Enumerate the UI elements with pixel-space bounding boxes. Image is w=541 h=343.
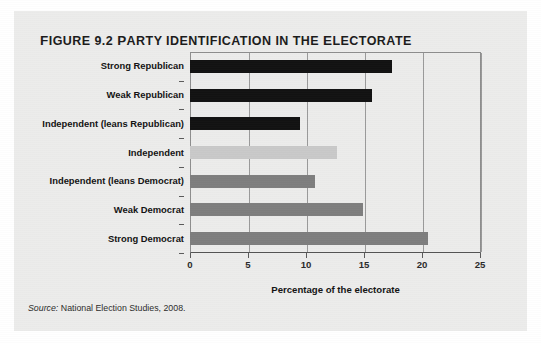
figure-title-initial: P bbox=[117, 33, 126, 48]
category-label: Independent (leans Democrat) bbox=[4, 175, 184, 186]
bar-independent-leans-republican bbox=[190, 117, 300, 130]
category-label: Weak Democrat bbox=[4, 204, 184, 215]
bar-strong-republican bbox=[190, 60, 392, 73]
source-note: Source: National Election Studies, 2008. bbox=[28, 303, 185, 313]
x-axis-tick-label: 10 bbox=[301, 259, 312, 270]
y-axis-tick bbox=[179, 253, 184, 254]
x-axis-tick-label: 5 bbox=[245, 259, 250, 270]
source-text: National Election Studies, 2008. bbox=[58, 303, 185, 313]
bar-strong-democrat bbox=[190, 232, 428, 245]
x-axis-tick-label: 20 bbox=[417, 259, 428, 270]
bar-weak-democrat bbox=[190, 203, 363, 216]
y-axis-tick bbox=[179, 138, 184, 139]
bar-row bbox=[190, 81, 481, 110]
figure-number-rest: IGURE 9.2 bbox=[49, 34, 117, 48]
y-axis-tick bbox=[179, 109, 184, 110]
x-axis-tick-labels: 0510152025 bbox=[150, 259, 530, 275]
category-label: Independent bbox=[4, 147, 184, 158]
x-axis-tick-10 bbox=[306, 253, 307, 258]
x-axis-tick-label: 0 bbox=[187, 259, 192, 270]
bar-row bbox=[190, 52, 481, 81]
figure-title-tail: LECTORATE bbox=[332, 34, 411, 48]
x-axis-tick-label: 25 bbox=[475, 259, 486, 270]
bar-row bbox=[190, 138, 481, 167]
category-label: Strong Republican bbox=[4, 60, 184, 71]
figure-number: F bbox=[40, 33, 49, 48]
figure-screenshot: FIGURE 9.2 PARTY IDENTIFICATION IN THE E… bbox=[0, 0, 541, 343]
bar-row bbox=[190, 109, 481, 138]
x-axis-tick-15 bbox=[364, 253, 365, 258]
bars-layer bbox=[190, 52, 481, 253]
figure-title: FIGURE 9.2 PARTY IDENTIFICATION IN THE E… bbox=[40, 33, 412, 48]
x-axis-tick-5 bbox=[248, 253, 249, 258]
figure-title-cap-2: DENTIFICATION IN THE bbox=[170, 34, 323, 48]
y-axis-tick bbox=[179, 81, 184, 82]
bar-weak-republican bbox=[190, 89, 372, 102]
category-label: Weak Republican bbox=[4, 89, 184, 100]
x-axis-tick-25 bbox=[480, 253, 481, 258]
x-axis-tick-label: 15 bbox=[359, 259, 370, 270]
source-label: Source: bbox=[28, 303, 58, 313]
x-axis-tick-20 bbox=[422, 253, 423, 258]
gridline-25 bbox=[481, 53, 482, 252]
bar-row bbox=[190, 196, 481, 225]
bar-independent bbox=[190, 146, 337, 159]
bar-independent-leans-democrat bbox=[190, 175, 315, 188]
category-label: Strong Democrat bbox=[4, 233, 184, 244]
bar-row bbox=[190, 167, 481, 196]
category-label: Independent (leans Republican) bbox=[4, 118, 184, 129]
x-axis-tick-0 bbox=[190, 253, 191, 258]
bar-row bbox=[190, 224, 481, 253]
category-axis-labels: Strong RepublicanWeak RepublicanIndepend… bbox=[0, 52, 184, 253]
x-axis-title: Percentage of the electorate bbox=[190, 284, 481, 295]
y-axis-tick bbox=[179, 224, 184, 225]
y-axis-tick bbox=[179, 196, 184, 197]
figure-title-text: ARTY I bbox=[127, 34, 170, 48]
y-axis-tick bbox=[179, 167, 184, 168]
